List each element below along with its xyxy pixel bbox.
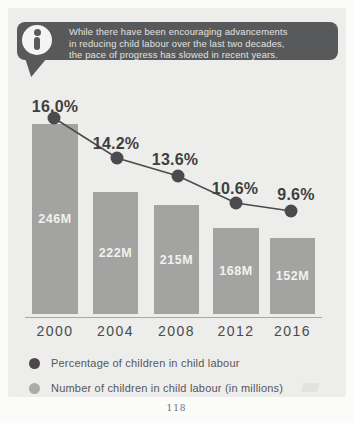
pct-label-2008: 13.6% xyxy=(152,151,198,169)
x-axis-label-2004: 2004 xyxy=(97,323,134,339)
pct-label-2004: 14.2% xyxy=(93,135,139,153)
info-icon xyxy=(22,25,52,55)
legend-dot-number xyxy=(29,383,40,394)
x-axis-label-2016: 2016 xyxy=(274,323,311,339)
legend-label-percentage: Percentage of children in child labour xyxy=(51,357,240,369)
trend-dot-2012 xyxy=(230,197,243,210)
print-artifact xyxy=(301,383,319,392)
trend-dot-2004 xyxy=(111,152,124,165)
legend-item-percentage: Percentage of children in child labour xyxy=(29,357,240,369)
legend-dot-percentage xyxy=(29,358,40,369)
pct-label-2016: 9.6% xyxy=(277,186,314,204)
pct-label-2000: 16.0% xyxy=(32,98,78,116)
x-axis-label-2008: 2008 xyxy=(158,323,195,339)
x-axis-label-2012: 2012 xyxy=(217,323,254,339)
legend-item-number: Number of children in child labour (in m… xyxy=(29,382,283,394)
x-axis-label-2000: 2000 xyxy=(36,323,73,339)
page-number: 118 xyxy=(0,403,353,413)
callout-line-1: While there have been encouraging advanc… xyxy=(69,26,288,38)
callout-text: While there have been encouraging advanc… xyxy=(69,26,288,61)
legend-label-number: Number of children in child labour (in m… xyxy=(51,382,283,394)
x-axis-line xyxy=(25,317,322,318)
pct-label-2012: 10.6% xyxy=(212,180,258,198)
info-icon-stem xyxy=(34,37,40,50)
info-icon-dot xyxy=(34,29,41,36)
callout-bubble: While there have been encouraging advanc… xyxy=(17,22,338,60)
callout-line-2: in reducing child labour over the last t… xyxy=(69,38,288,50)
callout-line-3: the pace of progress has slowed in recen… xyxy=(69,49,288,61)
trend-dot-2016 xyxy=(285,205,298,218)
trend-dot-2008 xyxy=(172,170,185,183)
